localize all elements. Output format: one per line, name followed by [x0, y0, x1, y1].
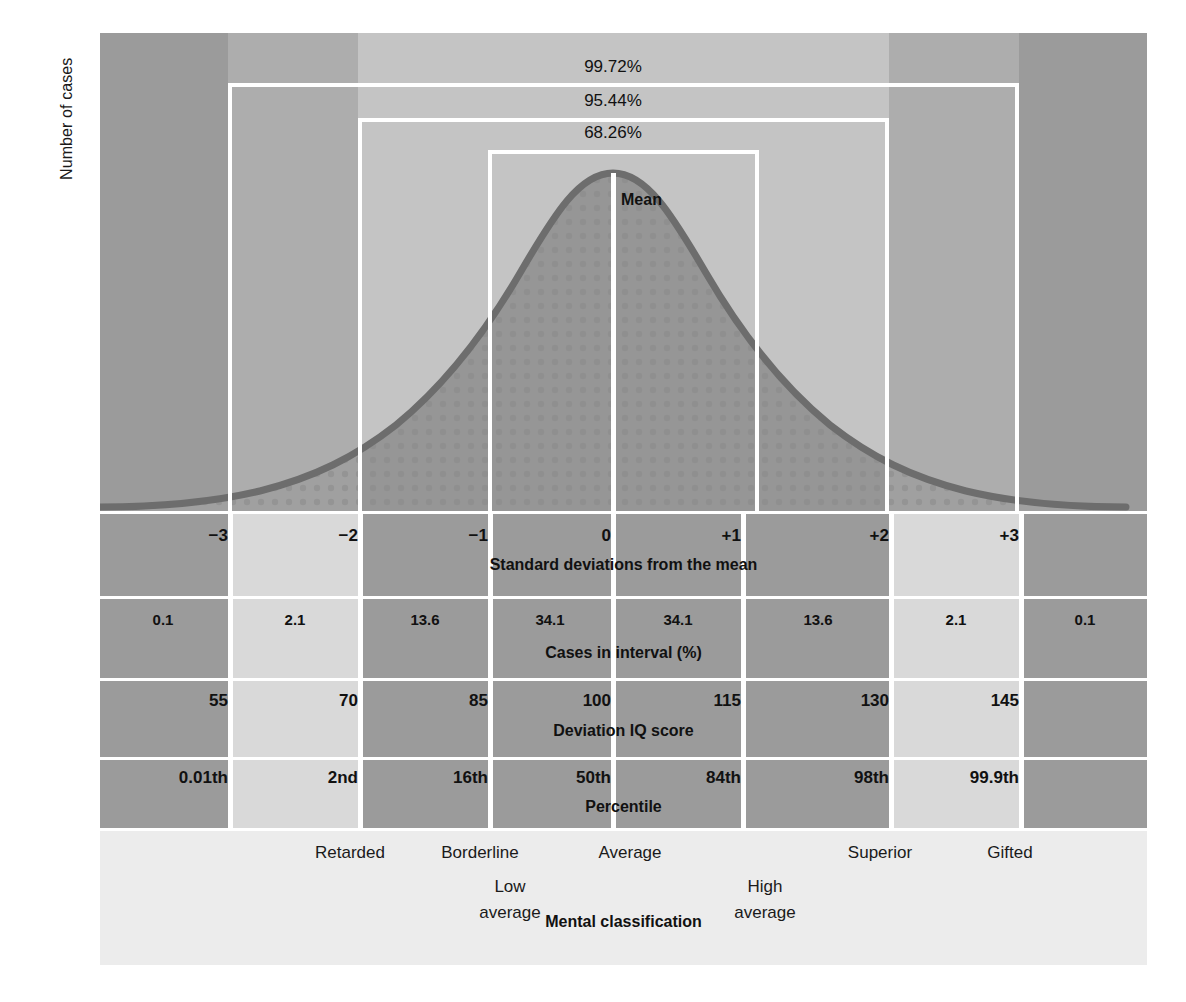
x-axis-title: Standard deviations from the mean: [100, 556, 1147, 574]
classification-row-title: Mental classification: [100, 913, 1147, 931]
cases-value-6: 2.1: [911, 611, 1001, 628]
iq-value-85: 85: [408, 691, 488, 711]
iq-value-145: 145: [939, 691, 1019, 711]
iq-row-title: Deviation IQ score: [100, 722, 1147, 740]
percentile-value-2: 16th: [390, 768, 488, 788]
percentile-value-3: 50th: [513, 768, 611, 788]
cases-in-interval-row: 0.1 2.1 13.6 34.1 34.1 13.6 2.1 0.1 Case…: [100, 599, 1147, 678]
standard-deviations-row: −3 −2 −1 0 +1 +2 +3 Standard deviations …: [100, 514, 1147, 596]
y-axis-label: Number of cases: [58, 0, 80, 180]
sd-tick-+3: +3: [939, 526, 1019, 546]
sd-tick-0: 0: [531, 526, 611, 546]
percentile-value-6: 99.9th: [911, 768, 1019, 788]
sd-tick--1: −1: [408, 526, 488, 546]
classification-high: High: [685, 877, 845, 897]
mean-label: Mean: [621, 191, 662, 209]
cases-value-2: 13.6: [380, 611, 470, 628]
sd-tick-+2: +2: [809, 526, 889, 546]
plot-area: 99.72% 95.44% 68.26% Mean: [100, 33, 1147, 511]
iq-value-130: 130: [809, 691, 889, 711]
classification-average: Average: [550, 843, 710, 863]
percentile-row-title: Percentile: [100, 798, 1147, 816]
iq-value-115: 115: [661, 691, 741, 711]
sd-cell-7: [1024, 514, 1147, 596]
sd-tick--2: −2: [278, 526, 358, 546]
mean-line: [611, 173, 616, 511]
percentile-value-4: 84th: [643, 768, 741, 788]
deviation-iq-row: 55 70 85 100 115 130 145 Deviation IQ sc…: [100, 681, 1147, 757]
cases-value-0: 0.1: [118, 611, 208, 628]
cases-value-5: 13.6: [773, 611, 863, 628]
chart-container: 99.72% 95.44% 68.26% Mean −3 −2 −1 0 +1: [100, 33, 1147, 965]
coverage-label-95: 95.44%: [513, 91, 713, 111]
coverage-label-99: 99.72%: [513, 57, 713, 77]
cases-value-7: 0.1: [1040, 611, 1130, 628]
classification-low: Low: [430, 877, 590, 897]
sd-tick-+1: +1: [661, 526, 741, 546]
mental-classification-row: Retarded Borderline Low average Average …: [100, 831, 1147, 965]
sd-tick--3: −3: [148, 526, 228, 546]
iq-value-55: 55: [148, 691, 228, 711]
iq-value-100: 100: [531, 691, 611, 711]
percentile-value-1: 2nd: [260, 768, 358, 788]
iq-bell-curve-figure: Number of cases: [0, 0, 1186, 1002]
coverage-label-68: 68.26%: [513, 123, 713, 143]
percentile-row: 0.01th 2nd 16th 50th 84th 98th 99.9th Pe…: [100, 760, 1147, 828]
cases-value-3: 34.1: [505, 611, 595, 628]
cases-value-4: 34.1: [633, 611, 723, 628]
cases-value-1: 2.1: [250, 611, 340, 628]
iq-value-70: 70: [278, 691, 358, 711]
cases-row-title: Cases in interval (%): [100, 644, 1147, 662]
iq-cell-7: [1024, 681, 1147, 757]
classification-borderline: Borderline: [400, 843, 560, 863]
classification-gifted: Gifted: [930, 843, 1090, 863]
percentile-value-0: 0.01th: [120, 768, 228, 788]
percentile-value-5: 98th: [791, 768, 889, 788]
pct-cell-7: [1024, 760, 1147, 828]
